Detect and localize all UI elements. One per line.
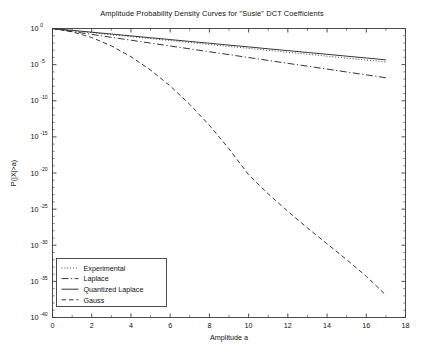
y-tick-mantissa: 10 — [31, 277, 39, 286]
x-tick-label: 4 — [129, 321, 133, 330]
y-tick-label: 10-5 — [31, 58, 45, 69]
y-tick-exponent: -5 — [40, 58, 45, 64]
x-tick-label: 18 — [402, 321, 410, 330]
y-axis-label: P(|X|>a) — [9, 160, 18, 186]
x-tick-label: 2 — [90, 321, 94, 330]
figure-canvas: Amplitude Probability Density Curves for… — [0, 0, 424, 355]
y-tick-label: 10-25 — [31, 203, 48, 214]
y-tick-label: 10-20 — [31, 166, 48, 177]
x-axis-label: Amplitude a — [210, 333, 248, 342]
y-tick-label: 10-35 — [31, 275, 48, 286]
y-tick-exponent: 0 — [40, 22, 43, 28]
series-line-quantized-laplace — [53, 29, 386, 60]
x-tick-label: 0 — [51, 321, 55, 330]
y-tick-exponent: -25 — [40, 203, 48, 209]
y-tick-label: 10-30 — [31, 239, 48, 250]
y-tick-label: 10-15 — [31, 130, 48, 141]
x-tick-label: 10 — [245, 321, 253, 330]
y-tick-mantissa: 10 — [31, 96, 39, 105]
y-tick-mantissa: 10 — [31, 205, 39, 214]
y-tick-mantissa: 10 — [31, 169, 39, 178]
y-tick-label: 10-10 — [31, 94, 48, 105]
legend-layer: ExperimentalLaplaceQuantized LaplaceGaus… — [57, 259, 167, 307]
y-tick-mantissa: 10 — [31, 313, 39, 322]
y-tick-exponent: -40 — [40, 311, 48, 317]
y-tick-exponent: -35 — [40, 275, 48, 281]
legend-label: Quantized Laplace — [84, 285, 144, 294]
y-tick-exponent: -20 — [40, 166, 48, 172]
legend-label: Gauss — [84, 296, 105, 305]
x-tick-label: 12 — [284, 321, 292, 330]
series-line-gauss — [53, 29, 386, 296]
curve-layer — [53, 29, 386, 296]
y-tick-mantissa: 10 — [31, 60, 39, 69]
legend-label: Experimental — [84, 264, 126, 273]
x-tick-label: 6 — [168, 321, 172, 330]
series-line-laplace — [53, 29, 386, 78]
y-tick-mantissa: 10 — [31, 132, 39, 141]
y-tick-mantissa: 10 — [31, 24, 39, 33]
y-tick-exponent: -15 — [40, 130, 48, 136]
x-tick-label: 8 — [207, 321, 211, 330]
y-tick-exponent: -30 — [40, 239, 48, 245]
x-tick-label: 14 — [323, 321, 331, 330]
y-tick-exponent: -10 — [40, 94, 48, 100]
y-tick-label: 10-40 — [31, 311, 48, 322]
x-tick-label: 16 — [362, 321, 370, 330]
y-tick-mantissa: 10 — [31, 241, 39, 250]
y-tick-label: 100 — [31, 22, 44, 33]
plot-svg: 02468101214161810010-510-1010-1510-2010-… — [0, 0, 424, 355]
legend-label: Laplace — [84, 274, 109, 283]
